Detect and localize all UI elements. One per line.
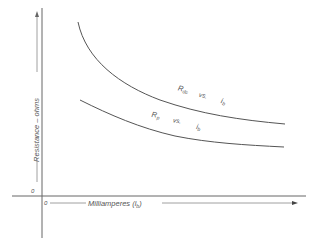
y-axis-arrow-icon — [35, 11, 39, 17]
svg-text:vs.: vs. — [198, 91, 208, 100]
y-axis-label: Resistance – ohms — [32, 98, 41, 162]
svg-text:Rp: Rp — [151, 110, 161, 121]
svg-text:Rdc: Rdc — [177, 83, 190, 95]
svg-text:ib: ib — [196, 122, 202, 132]
x-origin-label: 0 — [44, 200, 48, 206]
chart: Resistance – ohms 0 0 Milliamperes (ib) … — [0, 0, 318, 240]
curve-rdc-label: Rdc vs. ib — [176, 83, 227, 106]
curve-rp-label: Rp vs. ib — [150, 110, 202, 132]
curve-rdc — [78, 22, 285, 124]
x-axis-arrow-icon — [292, 201, 298, 205]
svg-text:ib: ib — [220, 96, 227, 106]
y-origin-label: 0 — [31, 188, 35, 194]
x-axis-label: Milliamperes (ib) — [88, 199, 142, 209]
svg-text:vs.: vs. — [173, 116, 182, 124]
